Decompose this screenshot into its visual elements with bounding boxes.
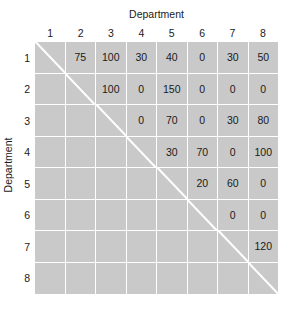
matrix-cell-4-3 [96,137,127,169]
matrix-cell-5-5 [157,168,188,200]
matrix-cell-7-8: 120 [249,231,279,263]
cell-value: 0 [199,83,205,95]
matrix-cell-5-3 [96,168,127,200]
matrix-cell-5-6: 20 [188,168,219,200]
cell-value: 0 [260,177,266,189]
matrix-cell-3-4: 0 [127,105,158,137]
matrix-cell-6-5 [157,200,188,232]
column-header-3: 3 [96,26,126,40]
matrix-cell-5-2 [66,168,97,200]
matrix-cell-3-8: 80 [249,105,279,137]
matrix-cell-3-5: 70 [157,105,188,137]
matrix-row: 30700100 [35,137,278,169]
matrix-row: 1000150000 [35,74,278,106]
matrix-cell-6-1 [35,200,66,232]
cell-value: 50 [257,51,269,63]
matrix-cell-7-3 [96,231,127,263]
matrix-row: 20600 [35,168,278,200]
column-header-2: 2 [65,26,95,40]
matrix-cell-8-6 [188,263,219,295]
cell-value: 70 [166,114,178,126]
matrix-cell-2-5: 150 [157,74,188,106]
matrix-cell-6-4 [127,200,158,232]
department-flow-matrix: 7510030400305010001500000700308030700100… [35,42,278,294]
matrix-cell-7-2 [66,231,97,263]
matrix-cell-8-8 [249,263,279,295]
cell-value: 75 [74,51,86,63]
cell-value: 0 [230,209,236,221]
matrix-cell-1-3: 100 [96,42,127,74]
cell-value: 0 [138,114,144,126]
matrix-cell-2-7: 0 [218,74,249,106]
matrix-cell-5-4 [127,168,158,200]
matrix-cell-5-7: 60 [218,168,249,200]
matrix-row: 120 [35,231,278,263]
cell-value: 0 [230,146,236,158]
matrix-cell-3-2 [66,105,97,137]
matrix-cell-1-5: 40 [157,42,188,74]
cell-value: 100 [102,83,120,95]
column-header-row: 12345678 [35,26,278,40]
matrix-cell-1-4: 30 [127,42,158,74]
cell-value: 0 [260,83,266,95]
matrix-cell-1-6: 0 [188,42,219,74]
matrix-cell-2-1 [35,74,66,106]
matrix-cell-4-1 [35,137,66,169]
matrix-cell-4-4 [127,137,158,169]
row-header-column: 12345678 [8,42,32,294]
cell-value: 100 [254,146,272,158]
cell-value: 30 [227,114,239,126]
matrix-cell-4-7: 0 [218,137,249,169]
matrix-cell-2-4: 0 [127,74,158,106]
column-header-6: 6 [187,26,217,40]
row-header-4: 4 [8,137,32,169]
matrix-cell-1-8: 50 [249,42,279,74]
cell-value: 30 [166,146,178,158]
matrix-cell-6-6 [188,200,219,232]
matrix-cell-6-7: 0 [218,200,249,232]
cell-value: 30 [135,51,147,63]
cell-value: 0 [199,114,205,126]
column-header-8: 8 [248,26,278,40]
matrix-cell-7-7 [218,231,249,263]
cell-value: 100 [102,51,120,63]
matrix-row: 00 [35,200,278,232]
matrix-cell-8-4 [127,263,158,295]
matrix-cell-3-6: 0 [188,105,219,137]
matrix-cell-6-8: 0 [249,200,279,232]
column-header-7: 7 [217,26,247,40]
matrix-cell-2-2 [66,74,97,106]
matrix-cell-8-5 [157,263,188,295]
cell-value: 0 [230,83,236,95]
cell-value: 0 [199,51,205,63]
cell-value: 150 [163,83,181,95]
matrix-cell-3-3 [96,105,127,137]
matrix-cell-8-1 [35,263,66,295]
matrix-cell-3-7: 30 [218,105,249,137]
matrix-cell-4-8: 100 [249,137,279,169]
row-header-2: 2 [8,74,32,106]
row-header-6: 6 [8,200,32,232]
column-header-4: 4 [126,26,156,40]
matrix-cell-4-6: 70 [188,137,219,169]
cell-value: 0 [138,83,144,95]
matrix-cell-6-2 [66,200,97,232]
matrix-cell-6-3 [96,200,127,232]
matrix-cell-3-1 [35,105,66,137]
matrix-cell-7-5 [157,231,188,263]
matrix-cell-1-2: 75 [66,42,97,74]
cell-value: 70 [196,146,208,158]
cell-value: 80 [257,114,269,126]
row-header-3: 3 [8,105,32,137]
matrix-cell-5-1 [35,168,66,200]
column-header-5: 5 [157,26,187,40]
matrix-cell-2-8: 0 [249,74,279,106]
cell-value: 0 [260,209,266,221]
matrix-cell-4-5: 30 [157,137,188,169]
cell-value: 40 [166,51,178,63]
column-axis-title: Department [35,8,278,20]
matrix-cell-4-2 [66,137,97,169]
row-header-1: 1 [8,42,32,74]
matrix-cell-5-8: 0 [249,168,279,200]
cell-value: 20 [196,177,208,189]
